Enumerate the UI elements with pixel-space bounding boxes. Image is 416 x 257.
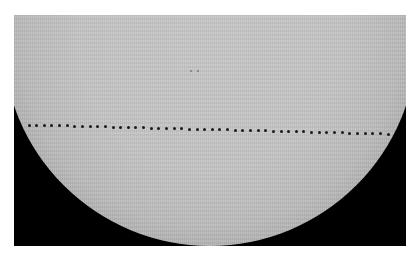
image-frame [14,15,406,246]
sunspot [197,70,199,72]
transit-dot [165,127,168,130]
transit-dot [150,127,153,130]
transit-dot [234,129,237,132]
transit-dot [364,132,367,135]
sunspot [190,70,192,72]
transit-dot [272,130,275,133]
transit-dot [188,128,191,131]
transit-dot [81,125,84,128]
transit-dot [196,128,199,131]
solar-disk [14,15,406,246]
transit-dot [112,126,115,129]
transit-dot [43,124,46,127]
transit-dot [318,131,321,134]
transit-dot [89,125,92,128]
transit-dot [257,129,260,132]
transit-dot [211,128,214,131]
transit-dot [28,124,31,127]
transit-dot [173,127,176,130]
solar-surface-texture [14,15,406,246]
transit-dot [356,132,359,135]
transit-dot [35,124,38,127]
transit-dot [348,132,351,135]
transit-dot [310,131,313,134]
transit-dot [127,126,130,129]
transit-dot [387,133,390,136]
transit-dot [119,126,122,129]
transit-dot [280,130,283,133]
